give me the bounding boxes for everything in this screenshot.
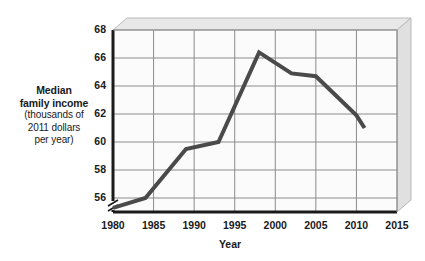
x-tick-label: 1990 [172,219,216,231]
median-family-income-line-chart: Median family income (thousands of 2011 … [0,0,425,261]
x-axis-tick-labels: 1980 1985 1990 1995 2000 2005 2010 2015 [0,0,425,261]
x-tick-label: 1985 [132,219,176,231]
x-tick-label: 1980 [91,219,135,231]
x-tick-label: 2000 [253,219,297,231]
x-tick-label: 2005 [294,219,338,231]
x-tick-label: 2015 [375,219,419,231]
x-tick-label: 2010 [334,219,378,231]
x-tick-label: 1995 [213,219,257,231]
x-axis-title: Year [150,238,310,250]
